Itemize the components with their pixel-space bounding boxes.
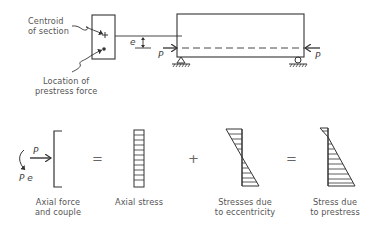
couple-arrow-icon — [20, 150, 25, 170]
cross-section — [92, 15, 115, 59]
plus-operator: + — [188, 152, 199, 165]
equals-operator-2: = — [286, 152, 297, 165]
eccentricity-symbol: e — [130, 37, 136, 47]
roller-support-icon — [289, 57, 307, 67]
beam — [177, 14, 304, 57]
pin-support-icon — [172, 57, 190, 67]
caption-line: Axial force — [33, 197, 83, 207]
axial-force-symbol: P — [33, 146, 38, 156]
prestress-leader — [72, 50, 102, 72]
caption-prestress-stress: Stress due to prestress — [307, 197, 363, 217]
centroid-marker-icon — [102, 32, 108, 38]
centroid-leader — [72, 26, 103, 34]
caption-line: Stress due — [307, 197, 363, 207]
couple-symbol: P e — [19, 173, 33, 183]
force-label-left: P — [158, 50, 163, 60]
prestress-location-dot — [102, 47, 106, 51]
prestress-stress-diagram — [320, 128, 355, 186]
centroid-label-line2: of section — [28, 26, 69, 36]
caption-line: Stresses due — [214, 197, 276, 207]
force-label-right: P — [315, 51, 320, 61]
prestress-location-label-line2: prestress force — [35, 86, 97, 96]
prestress-location-label: Location of prestress force — [35, 76, 97, 96]
caption-axial-stress: Axial stress — [111, 197, 167, 207]
axial-stress-block — [134, 130, 144, 187]
prestress-location-label-line1: Location of — [35, 76, 97, 86]
caption-line: and couple — [33, 207, 83, 217]
section-bracket — [54, 131, 62, 187]
equals-operator-1: = — [92, 152, 103, 165]
centroid-label-line1: Centroid — [28, 16, 69, 26]
centroid-label: Centroid of section — [28, 16, 69, 36]
caption-line: to prestress — [307, 207, 363, 217]
caption-line: to eccentricity — [214, 207, 276, 217]
eccentricity-stress-diagram — [226, 129, 259, 186]
eccentricity-dimension — [135, 37, 151, 48]
caption-eccentricity-stresses: Stresses due to eccentricity — [214, 197, 276, 217]
caption-line: Axial stress — [111, 197, 167, 207]
caption-axial-force-couple: Axial force and couple — [33, 197, 83, 217]
